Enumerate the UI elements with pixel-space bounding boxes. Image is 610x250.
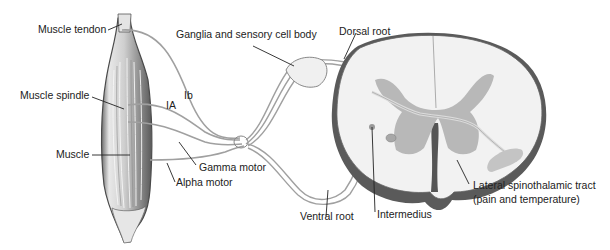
label-ventral-root: Ventral root: [300, 210, 354, 222]
label-ib: Ib: [184, 89, 193, 101]
label-ganglia: Ganglia and sensory cell body: [176, 28, 317, 40]
label-ia: IA: [166, 99, 176, 111]
muscle-illustration: [102, 14, 152, 243]
label-muscle-spindle: Muscle spindle: [20, 89, 90, 101]
label-intermedius: Intermedius: [377, 208, 432, 220]
label-gamma-motor: Gamma motor: [199, 161, 267, 173]
label-lateral-spinothalamic-tract: Lateral spinothalamic tract: [473, 179, 596, 191]
label-muscle-tendon: Muscle tendon: [38, 23, 106, 35]
label-lateral-spinothalamic-tract-note: (pain and temperature): [473, 193, 580, 205]
reflex-pathway-diagram: Muscle tendon Muscle spindle Muscle Ib I…: [0, 0, 610, 250]
label-dorsal-root: Dorsal root: [339, 25, 390, 37]
label-alpha-motor: Alpha motor: [176, 176, 233, 188]
ganglion: [286, 57, 327, 87]
label-muscle: Muscle: [56, 148, 89, 160]
